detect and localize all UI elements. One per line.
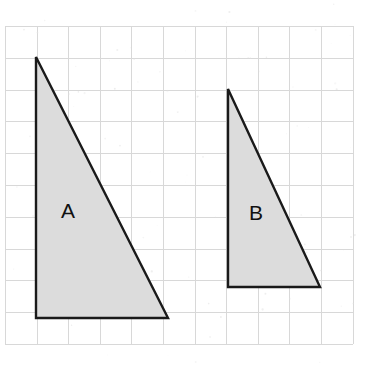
texture-speck xyxy=(331,43,332,44)
texture-speck xyxy=(264,293,266,295)
texture-speck xyxy=(352,303,354,305)
texture-speck xyxy=(266,57,267,58)
texture-speck xyxy=(78,91,80,93)
geometry-figure: AB A B xyxy=(0,0,366,366)
texture-speck xyxy=(195,10,197,12)
texture-speck xyxy=(16,186,18,188)
triangle-a-label: A xyxy=(61,199,75,222)
texture-speck xyxy=(320,270,321,271)
texture-speck xyxy=(197,96,199,98)
texture-speck xyxy=(71,324,72,325)
texture-speck xyxy=(315,29,317,31)
texture-speck xyxy=(109,60,110,61)
texture-speck xyxy=(13,268,14,269)
texture-speck xyxy=(220,316,222,318)
texture-speck xyxy=(286,133,287,134)
texture-speck xyxy=(137,81,138,82)
texture-speck xyxy=(333,3,334,4)
texture-speck xyxy=(215,217,216,218)
texture-speck xyxy=(130,47,131,48)
texture-speck xyxy=(306,252,308,254)
texture-speck xyxy=(36,32,38,34)
texture-speck xyxy=(228,11,230,13)
texture-speck xyxy=(157,225,158,226)
texture-speck xyxy=(308,127,309,128)
texture-speck xyxy=(297,125,298,126)
texture-speck xyxy=(107,355,108,356)
texture-speck xyxy=(177,111,179,113)
texture-speck xyxy=(292,86,293,87)
texture-speck xyxy=(258,71,260,73)
texture-speck xyxy=(261,308,263,310)
texture-speck xyxy=(226,22,227,23)
texture-speck xyxy=(168,355,169,356)
texture-speck xyxy=(73,106,74,107)
texture-speck xyxy=(104,138,106,140)
texture-speck xyxy=(289,298,291,300)
texture-speck xyxy=(119,145,121,147)
figure-canvas: AB xyxy=(0,0,366,366)
texture-speck xyxy=(208,303,210,305)
texture-speck xyxy=(114,88,116,90)
texture-speck xyxy=(319,362,320,363)
texture-speck xyxy=(27,241,28,242)
texture-speck xyxy=(116,49,118,51)
texture-speck xyxy=(142,237,144,239)
texture-speck xyxy=(150,172,151,173)
texture-speck xyxy=(336,88,338,90)
texture-speck xyxy=(350,147,351,148)
texture-speck xyxy=(159,71,161,73)
triangle-b-label: B xyxy=(249,201,263,224)
texture-speck xyxy=(75,66,76,67)
texture-speck xyxy=(133,58,135,60)
texture-speck xyxy=(350,236,352,238)
texture-speck xyxy=(341,305,343,307)
texture-speck xyxy=(166,90,168,92)
texture-speck xyxy=(32,215,34,217)
texture-speck xyxy=(350,35,351,36)
texture-speck xyxy=(29,135,31,137)
texture-speck xyxy=(238,57,239,58)
texture-speck xyxy=(84,92,86,94)
texture-speck xyxy=(195,361,197,363)
texture-speck xyxy=(250,57,252,59)
texture-speck xyxy=(354,234,356,236)
texture-speck xyxy=(300,214,302,216)
texture-speck xyxy=(23,29,25,31)
texture-speck xyxy=(304,243,306,245)
texture-speck xyxy=(335,24,336,25)
texture-speck xyxy=(151,270,153,272)
texture-speck xyxy=(343,250,344,251)
texture-speck xyxy=(188,277,189,278)
texture-speck xyxy=(31,146,32,147)
texture-speck xyxy=(186,174,187,175)
texture-speck xyxy=(247,57,249,59)
texture-speck xyxy=(209,336,211,338)
texture-speck xyxy=(185,182,186,183)
texture-speck xyxy=(334,82,336,84)
texture-speck xyxy=(185,50,186,51)
texture-speck xyxy=(68,93,69,94)
texture-speck xyxy=(44,20,46,22)
texture-speck xyxy=(202,156,204,158)
